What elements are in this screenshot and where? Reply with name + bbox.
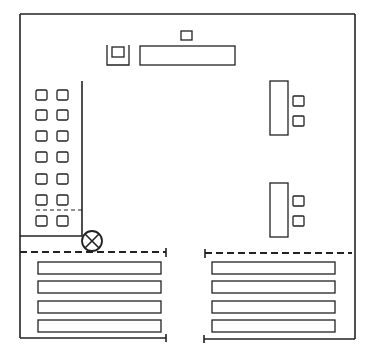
- right-desk-1: [270, 81, 288, 135]
- bench-left: [38, 301, 161, 313]
- bench-right: [212, 320, 335, 332]
- bench-left: [38, 262, 161, 274]
- seat: [36, 216, 47, 226]
- seat: [57, 216, 68, 226]
- bench-right: [212, 262, 335, 274]
- seat: [36, 195, 47, 205]
- seat: [36, 90, 47, 100]
- floor-plan-diagram: [0, 0, 373, 354]
- small-square-top: [181, 31, 192, 40]
- enclosed-square: [112, 47, 124, 57]
- bench-right: [212, 301, 335, 313]
- seat: [293, 96, 304, 106]
- seat: [57, 110, 68, 120]
- seat: [293, 196, 304, 206]
- seat: [293, 216, 304, 226]
- bench-right: [212, 281, 335, 293]
- seat: [36, 174, 47, 184]
- seat: [57, 174, 68, 184]
- u-enclosure: [107, 45, 129, 65]
- seat: [57, 90, 68, 100]
- seat: [57, 131, 68, 141]
- seat: [57, 152, 68, 162]
- right-desk-2: [270, 183, 288, 237]
- bench-left: [38, 320, 161, 332]
- seat: [293, 116, 304, 126]
- bench-left: [38, 281, 161, 293]
- long-desk: [140, 46, 235, 65]
- seat: [36, 110, 47, 120]
- seat: [57, 195, 68, 205]
- seat: [36, 131, 47, 141]
- seat: [36, 152, 47, 162]
